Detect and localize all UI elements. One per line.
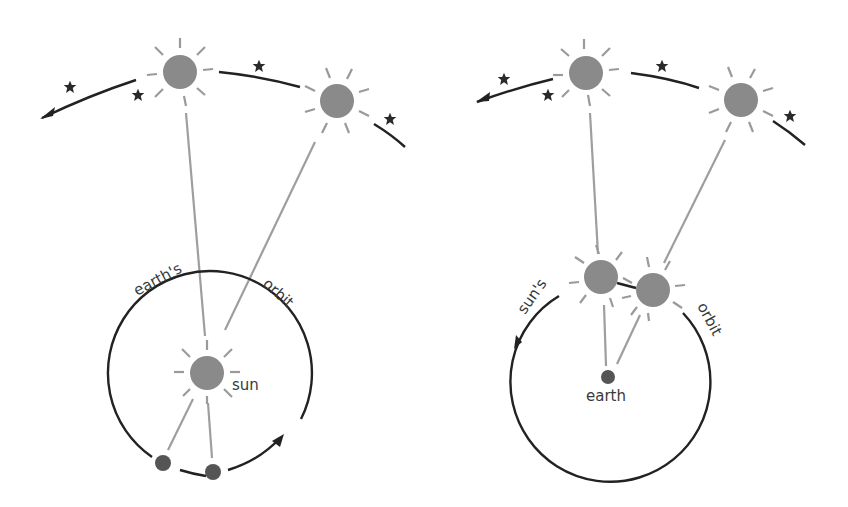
star-icon [542, 89, 555, 101]
sun-icon [163, 55, 197, 89]
left-sky-sun-a [147, 38, 213, 106]
left-sky-path-middle-segment [219, 72, 300, 87]
earth-position-2 [205, 464, 221, 480]
sun-icon [569, 56, 603, 90]
right-sky-sun-b [709, 67, 773, 132]
left-sight-lines [168, 113, 315, 458]
orbit-label-orbit: orbit [259, 275, 297, 312]
sun-icon [190, 356, 224, 390]
right-orbit-between-suns [617, 283, 636, 288]
sun-label: sun [232, 376, 259, 394]
right-panel: earth sun's orbit [476, 39, 805, 482]
earth-label: earth [586, 387, 626, 405]
sun-icon [320, 84, 354, 118]
orbit-label-suns: sun's [514, 275, 551, 317]
right-sky-sun-a [553, 39, 619, 106]
right-orbit-sun-2 [622, 257, 685, 321]
left-sky-path-arrow-segment [42, 80, 136, 118]
star-icon [384, 113, 397, 125]
sun-icon [636, 273, 670, 307]
star-icon [498, 73, 511, 85]
right-orbit-sun-1 [569, 245, 622, 307]
left-sky-sun-b [305, 68, 369, 133]
star-icon [253, 60, 266, 72]
star-icon [64, 81, 77, 93]
right-sky-path-right-segment [773, 121, 805, 145]
left-orbit-arrow-segment [228, 438, 280, 470]
right-sky-arrowhead-icon [476, 92, 490, 102]
star-icon [132, 89, 145, 101]
orbit-label-earths: earth's [130, 259, 184, 299]
sun-icon [584, 260, 618, 294]
star-icon [784, 110, 797, 122]
left-panel: sun earth's orbit [40, 38, 405, 480]
earth-position-1 [155, 455, 171, 471]
left-orbit-between-earths [180, 470, 206, 476]
left-sky-path-right-segment [374, 124, 405, 147]
right-sky-path [476, 73, 805, 145]
earth-center [601, 370, 615, 384]
left-central-sun [174, 340, 240, 404]
right-sky-path-middle-segment [631, 73, 699, 88]
diagram-canvas: sun earth's orbit [0, 0, 848, 507]
star-icon [656, 60, 669, 72]
sun-icon [724, 83, 758, 117]
